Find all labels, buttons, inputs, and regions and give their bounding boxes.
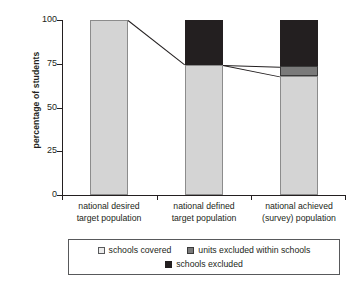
- legend-swatch-icon-schools-excluded: [165, 261, 172, 268]
- connector-bar1-to-bar2: [128, 20, 186, 65]
- x-label-line2: target population: [61, 213, 157, 225]
- bar-national-achieved: [280, 20, 318, 195]
- legend-swatch-icon-schools-covered: [98, 247, 105, 254]
- x-tick-1: [157, 195, 158, 200]
- legend-label-schools-excluded: schools excluded: [176, 259, 243, 269]
- y-tick-75: [57, 64, 62, 65]
- segment-schools-covered: [280, 76, 318, 195]
- bar-national-defined: [185, 20, 223, 195]
- x-label-line2: (survey) population: [251, 213, 347, 225]
- segment-schools-covered: [185, 65, 223, 195]
- plot-area: 100 75 50 25 0: [62, 20, 346, 195]
- legend-item-units-excluded: units excluded within schools: [187, 245, 310, 255]
- x-label-national-desired: national desired target population: [61, 201, 157, 224]
- legend-label-units-excluded: units excluded within schools: [198, 245, 310, 255]
- x-tick-0: [62, 195, 63, 200]
- x-label-line1: national desired: [61, 201, 157, 213]
- x-label-national-achieved: national achieved (survey) population: [251, 201, 347, 224]
- y-tick-50: [57, 108, 62, 109]
- legend-row-2: schools excluded: [69, 259, 339, 269]
- legend-item-schools-covered: schools covered: [98, 245, 172, 255]
- y-tick-label-50: 50: [17, 103, 57, 112]
- x-label-line1: national achieved: [251, 201, 347, 213]
- y-tick-25: [57, 151, 62, 152]
- segment-units-excluded-within-schools: [280, 66, 318, 76]
- y-axis-title: percentage of students: [31, 15, 41, 185]
- x-label-line1: national defined: [156, 201, 252, 213]
- x-tick-3: [345, 195, 346, 200]
- x-label-national-defined: national defined target population: [156, 201, 252, 224]
- stacked-bar-chart: percentage of students 100 75 50 25 0: [0, 0, 351, 291]
- y-tick-label-75: 75: [17, 59, 57, 68]
- segment-schools-excluded: [185, 20, 223, 65]
- legend-swatch-icon-units-excluded: [187, 247, 194, 254]
- y-tick-100: [57, 20, 62, 21]
- segment-schools-excluded: [280, 20, 318, 66]
- y-tick-label-100: 100: [17, 15, 57, 24]
- x-label-line2: target population: [156, 213, 252, 225]
- x-axis-line: [62, 195, 346, 196]
- legend-row-1: schools covered units excluded within sc…: [69, 245, 339, 255]
- y-tick-label-25: 25: [17, 146, 57, 155]
- legend: schools covered units excluded within sc…: [68, 239, 340, 275]
- legend-item-schools-excluded: schools excluded: [165, 259, 243, 269]
- segment-schools-covered: [90, 20, 128, 195]
- bar-national-desired: [90, 20, 128, 195]
- x-tick-2: [251, 195, 252, 200]
- y-axis-line: [62, 20, 63, 195]
- x-axis-labels: national desired target population natio…: [62, 201, 346, 231]
- legend-label-schools-covered: schools covered: [109, 245, 172, 255]
- y-tick-label-0: 0: [17, 190, 57, 199]
